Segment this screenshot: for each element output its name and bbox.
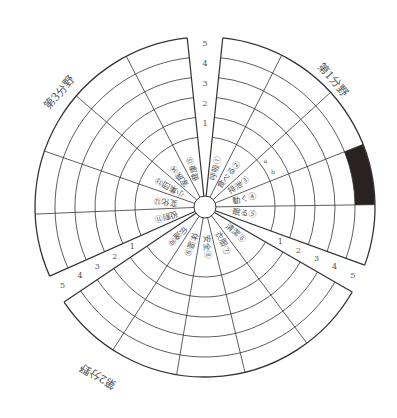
section-boundary-line xyxy=(215,213,353,293)
section-title: 第1分野 xyxy=(315,60,351,100)
level-number: 2 xyxy=(202,99,207,108)
ring-arc xyxy=(35,38,187,276)
level-number: 5 xyxy=(202,39,207,48)
level-number: 2 xyxy=(112,252,117,261)
level-number: 3 xyxy=(314,254,319,263)
circular-assessment-chart: 呼吸①食べる②排泄③ab動く④眠る⑤第1分野12345清潔⑥衣服⑦安全⑧体温⑨伝… xyxy=(0,0,397,418)
level-number: 4 xyxy=(202,59,207,68)
level-number: 2 xyxy=(296,246,301,255)
level-number: 1 xyxy=(278,237,283,246)
item-label: 安全⑧ xyxy=(202,235,213,259)
ring-arc xyxy=(55,58,189,268)
ring-arc xyxy=(114,262,300,317)
ring-arc xyxy=(81,282,335,357)
item-divider-line xyxy=(212,216,307,343)
filled-cell xyxy=(344,144,375,204)
section-title: 第2分野 xyxy=(77,360,119,392)
sub-label: b xyxy=(271,168,275,175)
level-number: 4 xyxy=(332,262,337,271)
section-boundary-line xyxy=(64,213,196,302)
level-number: 5 xyxy=(60,281,65,290)
level-number: 3 xyxy=(202,79,207,88)
sub-label: a xyxy=(264,157,268,164)
radar-diagram: 呼吸①食べる②排泄③ab動く④眠る⑤第1分野12345清潔⑥衣服⑦安全⑧体温⑨伝… xyxy=(0,0,397,418)
ring-arc xyxy=(97,272,317,337)
level-number: 4 xyxy=(77,271,82,280)
level-number: 3 xyxy=(95,262,100,271)
level-number: 1 xyxy=(130,242,135,251)
item-label: 変化⑫ xyxy=(153,195,178,208)
item-label: 役割⑪ xyxy=(153,209,179,224)
level-number: 1 xyxy=(202,119,207,128)
section-title: 第3分野 xyxy=(41,73,77,113)
item-label: 動く④ xyxy=(231,192,256,205)
item-divider-line xyxy=(76,96,196,200)
item-divider-line xyxy=(44,151,194,203)
item-divider-line xyxy=(126,56,200,197)
item-divider-line xyxy=(216,205,375,207)
item-divider-line xyxy=(215,144,363,203)
level-number: 5 xyxy=(350,271,355,280)
item-divider-line xyxy=(213,92,330,199)
center-circle xyxy=(194,196,216,218)
ring-arc xyxy=(64,292,352,377)
